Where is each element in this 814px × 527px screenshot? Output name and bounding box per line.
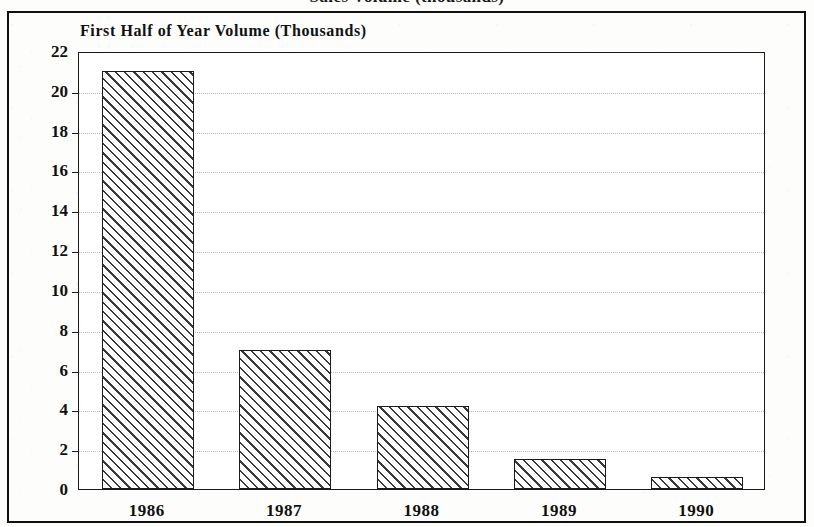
bar-1989 <box>514 459 606 489</box>
bar-1987 <box>239 350 331 489</box>
y-axis-tick-label: 12 <box>24 242 68 259</box>
x-axis-tick-label: 1986 <box>97 501 197 521</box>
y-tick-mark <box>72 451 79 452</box>
chart-screenshot: Sales Volume (thousands) First Half of Y… <box>0 0 814 527</box>
y-tick-mark <box>72 133 79 134</box>
y-axis-tick-label: 4 <box>24 401 68 418</box>
y-axis-tick-label: 6 <box>24 362 68 379</box>
y-tick-mark <box>72 212 79 213</box>
y-tick-mark <box>72 252 79 253</box>
x-axis-tick-label: 1988 <box>372 501 472 521</box>
bar-1988 <box>377 406 469 489</box>
y-tick-mark <box>72 411 79 412</box>
bar-1990 <box>651 477 743 489</box>
y-axis-tick-label: 2 <box>24 441 68 458</box>
x-axis-tick-label: 1987 <box>234 501 334 521</box>
bar-1986 <box>102 71 194 489</box>
y-tick-mark <box>72 292 79 293</box>
y-axis-tick-label: 18 <box>24 123 68 140</box>
plot-area <box>78 52 765 490</box>
y-tick-mark <box>72 332 79 333</box>
x-axis-tick-label: 1990 <box>646 501 746 521</box>
figure-supertitle: Sales Volume (thousands) <box>0 0 814 7</box>
cropped-supertitle-strip: Sales Volume (thousands) <box>0 0 814 11</box>
y-tick-mark <box>72 372 79 373</box>
y-axis-tick-label: 14 <box>24 202 68 219</box>
y-axis-tick-label: 20 <box>24 83 68 100</box>
y-axis-tick-label: 10 <box>24 282 68 299</box>
y-tick-mark <box>72 172 79 173</box>
y-axis-tick-label: 8 <box>24 322 68 339</box>
x-axis-tick-label: 1989 <box>509 501 609 521</box>
y-axis-tick-label: 16 <box>24 162 68 179</box>
y-axis-tick-label: 22 <box>24 43 68 60</box>
y-axis-tick-label: 0 <box>24 481 68 498</box>
chart-subtitle: First Half of Year Volume (Thousands) <box>80 22 367 40</box>
y-tick-mark <box>72 93 79 94</box>
